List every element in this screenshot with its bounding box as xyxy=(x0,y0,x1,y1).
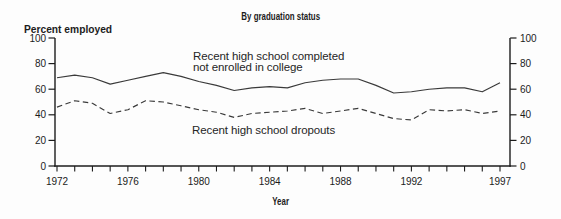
y-axis-right-tick-label: 100 xyxy=(520,33,537,44)
y-axis-left-tick-label: 80 xyxy=(35,58,46,69)
y-axis-right-tick-label: 20 xyxy=(520,135,531,146)
y-axis-right-tick-label: 60 xyxy=(520,84,531,95)
x-axis-tick-label: 1976 xyxy=(117,176,139,187)
y-axis-right-tick-label: 80 xyxy=(520,58,531,69)
dropouts-series-label-line1: Recent high school dropouts xyxy=(192,124,335,136)
x-axis-tick-label: 1972 xyxy=(46,176,68,187)
y-axis-left-tick-label: 60 xyxy=(35,84,46,95)
completers-series-label: Recent high school completed not enrolle… xyxy=(193,51,344,74)
y-axis-left-tick-label: 100 xyxy=(30,33,47,44)
x-axis-tick-label: 1997 xyxy=(489,176,511,187)
completers-series-label-line2: not enrolled in college xyxy=(193,62,344,73)
y-axis-left-tick-label: 0 xyxy=(41,161,47,172)
x-axis-tick-label: 1984 xyxy=(259,176,281,187)
y-axis-left-tick-label: 20 xyxy=(35,135,46,146)
y-axis-right-tick-label: 40 xyxy=(520,109,531,120)
y-axis-left-tick-label: 40 xyxy=(35,109,46,120)
completers-line xyxy=(57,73,500,93)
x-axis-tick-label: 1992 xyxy=(400,176,422,187)
employment-chart-figure: By graduation status Percent employed 00… xyxy=(0,0,561,219)
y-axis-right-tick-label: 0 xyxy=(520,161,526,172)
x-axis-title-text: Year xyxy=(272,195,289,207)
x-axis-title: Year xyxy=(0,195,561,207)
x-axis-tick-label: 1980 xyxy=(188,176,210,187)
chart-canvas: 0020204040606080801001001972197619801984… xyxy=(0,0,561,219)
x-axis-tick-label: 1988 xyxy=(330,176,352,187)
dropouts-series-label: Recent high school dropouts xyxy=(192,124,335,136)
dropouts-line xyxy=(57,101,500,120)
